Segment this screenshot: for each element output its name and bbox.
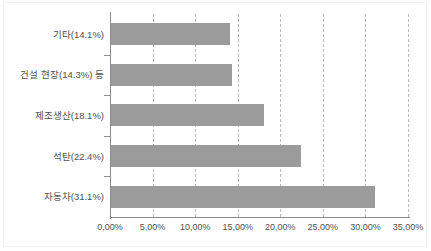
x-axis-tick-label: 5,00% <box>140 221 166 233</box>
y-axis-label-group: 기타(14.1%)건설 현장(14.3%) 등제조생산(18.1%)석탄(22.… <box>0 14 104 217</box>
y-axis-category-label: 기타(14.1%) <box>0 14 104 55</box>
category-label-text: 석탄(22.4%) <box>53 151 104 162</box>
x-axis-tick-label: 10,00% <box>180 221 211 233</box>
x-axis-tick-label: 25,00% <box>308 221 339 233</box>
category-label-text: 기타(14.1%) <box>53 29 104 40</box>
x-axis-tick-label: 30,00% <box>350 221 381 233</box>
x-axis-tick-label: 20,00% <box>265 221 296 233</box>
bar-row <box>110 136 408 177</box>
y-axis-tick <box>104 55 111 56</box>
x-axis-line <box>110 217 410 218</box>
y-axis-tick <box>104 136 111 137</box>
y-axis-line <box>110 12 111 219</box>
y-axis-category-label: 건설 현장(14.3%) 등 <box>0 55 104 96</box>
y-axis-tick <box>104 95 111 96</box>
x-axis-tick-label: 35,00% <box>393 221 424 233</box>
bar-row <box>110 95 408 136</box>
bar[interactable] <box>110 186 375 208</box>
category-label-text: 자동차(31.1%) <box>44 191 104 202</box>
x-axis-tick-label: 15,00% <box>222 221 253 233</box>
bar-row <box>110 55 408 96</box>
bar[interactable] <box>110 145 301 167</box>
y-axis-category-label: 석탄(22.4%) <box>0 136 104 177</box>
gridline-35 <box>408 14 409 217</box>
y-axis-category-label: 제조생산(18.1%) <box>0 95 104 136</box>
bar[interactable] <box>110 64 232 86</box>
category-label-text: 제조생산(18.1%) <box>35 110 104 121</box>
bar[interactable] <box>110 23 230 45</box>
bar-chart: 기타(14.1%)건설 현장(14.3%) 등제조생산(18.1%)석탄(22.… <box>0 0 431 251</box>
x-axis-tick-label-group: 0,00%5,00%10,00%15,00%20,00%25,00%30,00%… <box>0 221 431 237</box>
bar[interactable] <box>110 104 264 126</box>
category-label-text: 건설 현장(14.3%) 등 <box>20 69 104 80</box>
y-axis-category-label: 자동차(31.1%) <box>0 176 104 217</box>
y-axis-tick <box>104 176 111 177</box>
bar-row <box>110 14 408 55</box>
bar-row <box>110 176 408 217</box>
x-axis-tick-label: 0,00% <box>97 221 123 233</box>
plot-area <box>110 14 408 217</box>
